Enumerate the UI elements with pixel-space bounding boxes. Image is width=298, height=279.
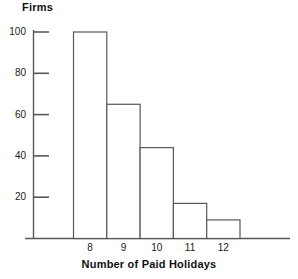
y-tick-label: 60 (0, 110, 26, 120)
bar (140, 148, 173, 239)
x-tick-label: 11 (173, 243, 207, 253)
x-axis-title: Number of Paid Holidays (0, 258, 298, 270)
y-tick-label: 80 (0, 68, 26, 78)
y-tick-label: 40 (0, 151, 26, 161)
y-tick-marks (34, 32, 49, 197)
x-tick-label: 9 (106, 243, 140, 253)
y-tick-label: 100 (0, 27, 26, 37)
bar (74, 32, 107, 239)
plot-area (0, 0, 298, 279)
x-tick-label: 8 (73, 243, 107, 253)
bar (107, 104, 140, 238)
bar-group (74, 32, 241, 239)
bar (173, 203, 206, 238)
x-tick-label: 10 (140, 243, 174, 253)
x-tick-label: 12 (206, 243, 240, 253)
bar (207, 220, 240, 239)
y-tick-label: 20 (0, 192, 26, 202)
histogram-chart: Firms 20406080100 89101112 Number of Pai… (0, 0, 298, 279)
